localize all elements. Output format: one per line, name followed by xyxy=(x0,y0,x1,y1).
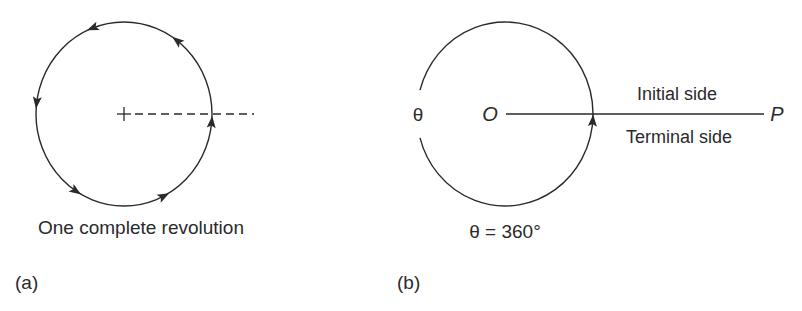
caption-theta-360: θ = 360° xyxy=(469,221,541,242)
panel-a: One complete revolution (a) xyxy=(15,22,254,293)
arrowhead-icon xyxy=(157,189,172,203)
initial-side-label: Initial side xyxy=(637,84,717,104)
revolution-diagram: One complete revolution (a) θ O P Initia… xyxy=(0,0,802,311)
caption-one-complete-revolution: One complete revolution xyxy=(38,217,244,238)
panel-b: θ O P Initial side Terminal side θ = 360… xyxy=(397,22,784,293)
endpoint-label: P xyxy=(770,103,784,125)
arrowhead-icon xyxy=(85,22,99,35)
panel-label-a: (a) xyxy=(15,272,38,293)
theta-label: θ xyxy=(413,104,424,125)
terminal-side-label: Terminal side xyxy=(626,127,732,147)
panel-label-b: (b) xyxy=(397,272,420,293)
arrowhead-icon xyxy=(69,184,84,198)
origin-label: O xyxy=(482,103,498,125)
center-cross-icon xyxy=(117,107,131,121)
